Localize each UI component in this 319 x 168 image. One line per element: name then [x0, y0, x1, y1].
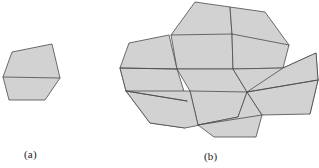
pentagon-tile — [171, 2, 233, 69]
panel-b-caption: (b) — [204, 150, 217, 162]
pentagon-tile — [3, 44, 60, 100]
pentagon-tile — [230, 7, 289, 69]
tiling-figure — [0, 0, 319, 168]
panel-b — [120, 2, 318, 137]
panel-a — [3, 44, 60, 100]
figure-root: (a) (b) — [0, 0, 319, 168]
pentagon-tile — [126, 91, 200, 128]
panel-a-caption: (a) — [24, 148, 37, 160]
